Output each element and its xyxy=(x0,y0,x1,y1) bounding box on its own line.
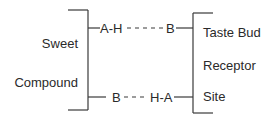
receptor-label: Receptor xyxy=(203,58,256,73)
top-acceptor-label: B xyxy=(166,21,175,36)
taste-bud-label: Taste Bud xyxy=(203,25,261,40)
bottom-interaction: B H-A xyxy=(88,90,193,105)
bottom-acceptor-label: B xyxy=(112,90,121,105)
sweet-label: Sweet xyxy=(42,36,79,51)
left-bracket xyxy=(68,10,88,110)
top-interaction: A-H B xyxy=(88,21,193,36)
compound-label: Compound xyxy=(14,75,78,90)
bottom-donor-label: H-A xyxy=(150,90,173,105)
top-donor-label: A-H xyxy=(100,21,122,36)
sweet-taste-binding-diagram: A-H B B H-A Sweet Compound Taste Bud Rec… xyxy=(0,0,276,127)
site-label: Site xyxy=(203,89,225,104)
